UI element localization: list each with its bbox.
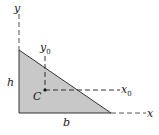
base-label: b	[63, 116, 70, 129]
triangle-shape	[19, 50, 111, 113]
y0-axis-label: y0	[39, 41, 51, 56]
height-label: h	[7, 76, 14, 89]
x-axis-label: x	[147, 107, 154, 120]
x0-axis-label: x0	[121, 83, 132, 98]
centroid-label: C	[33, 90, 42, 103]
triangle-diagram: y x y0 x0 h b C	[0, 0, 159, 135]
centroid-point	[43, 88, 46, 91]
y-axis-label: y	[13, 2, 21, 15]
